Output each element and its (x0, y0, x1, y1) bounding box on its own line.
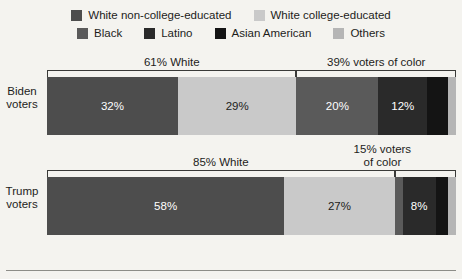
stacked-bar-chart: Biden voters 61% White 39% voters of col… (0, 45, 462, 245)
bracket-color-biden (296, 70, 456, 77)
legend-label: Others (350, 27, 385, 39)
bar-segment: 32% (47, 77, 178, 135)
bar-segment (427, 77, 447, 135)
bracket-label-white-biden: 61% White (47, 56, 296, 69)
legend-item-asian-american: Asian American (215, 27, 312, 39)
bar-segment-label: 29% (226, 100, 249, 112)
row-label-line1: Trump (0, 185, 44, 198)
bar-segment (448, 177, 456, 235)
row-label-biden: Biden voters (0, 85, 44, 111)
bar-segment-label: 12% (391, 100, 414, 112)
plot-area-biden: 61% White 39% voters of color 32% 29% 20… (47, 45, 456, 135)
legend-row-2: Black Latino Asian American Others (0, 27, 462, 39)
legend-label: Latino (161, 27, 192, 39)
bracket-color-trump (395, 170, 456, 177)
row-label-trump: Trump voters (0, 185, 44, 211)
bar-segment-label: 20% (326, 100, 349, 112)
bar-segment: 8% (403, 177, 436, 235)
legend-item-latino: Latino (144, 27, 192, 39)
legend-label: White non-college-educated (88, 9, 231, 21)
bar-segment: 27% (284, 177, 394, 235)
bracket-group-trump: 85% White 15% voters of color (47, 145, 456, 177)
legend-swatch-icon (333, 28, 344, 39)
bar-segment: 58% (47, 177, 284, 235)
legend-item-white-non-college: White non-college-educated (71, 9, 231, 21)
bar-segment: 29% (178, 77, 297, 135)
bracket-label-color-trump: 15% voters of color (309, 143, 456, 168)
row-label-line2: voters (0, 98, 44, 111)
legend-swatch-icon (71, 10, 82, 21)
legend-swatch-icon (144, 28, 155, 39)
bar-segment-label: 58% (154, 200, 177, 212)
bar-trump: 58% 27% 8% (47, 177, 456, 235)
bar-segment: 20% (296, 77, 378, 135)
footer-divider (6, 270, 456, 271)
row-label-line1: Biden (0, 85, 44, 98)
legend-item-black: Black (77, 27, 122, 39)
bracket-group-biden: 61% White 39% voters of color (47, 45, 456, 77)
bracket-label-line2: of color (309, 156, 456, 169)
bracket-label-color-biden: 39% voters of color (296, 56, 456, 69)
bar-biden: 32% 29% 20% 12% (47, 77, 456, 135)
legend-label: Black (94, 27, 122, 39)
bracket-white-biden (47, 70, 296, 77)
chart-row-trump: Trump voters 85% White 15% voters of col… (0, 145, 462, 245)
bracket-label-line1: 15% voters (309, 143, 456, 156)
legend-swatch-icon (254, 10, 265, 21)
legend-row-1: White non-college-educated White college… (0, 9, 462, 21)
legend-label: White college-educated (271, 9, 391, 21)
bar-segment-label: 32% (101, 100, 124, 112)
chart-row-biden: Biden voters 61% White 39% voters of col… (0, 45, 462, 145)
bar-segment: 12% (378, 77, 427, 135)
legend-swatch-icon (77, 28, 88, 39)
legend-label: Asian American (232, 27, 312, 39)
legend-swatch-icon (215, 28, 226, 39)
bar-segment (436, 177, 448, 235)
chart-legend: White non-college-educated White college… (0, 0, 462, 39)
legend-item-white-college: White college-educated (254, 9, 391, 21)
legend-item-others: Others (333, 27, 385, 39)
row-label-line2: voters (0, 198, 44, 211)
bar-segment-label: 27% (328, 200, 351, 212)
plot-area-trump: 85% White 15% voters of color 58% 27% 8% (47, 145, 456, 235)
bar-segment (395, 177, 403, 235)
bracket-white-trump (47, 170, 395, 177)
bar-segment (448, 77, 456, 135)
bar-segment-label: 8% (411, 200, 428, 212)
